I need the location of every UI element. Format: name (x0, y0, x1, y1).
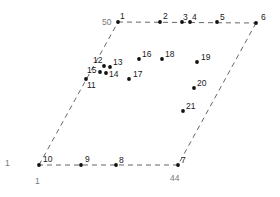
point-label: 5 (220, 12, 225, 22)
point-label: 9 (85, 154, 90, 164)
point-label: 16 (142, 49, 152, 59)
point-label: 12 (93, 55, 103, 65)
point-19: 19 (195, 52, 211, 64)
diagram-canvas: 501144 123456789101112131415161718192021 (0, 0, 280, 197)
point-16: 16 (137, 49, 152, 61)
point-marker (160, 57, 164, 61)
point-marker (104, 71, 108, 75)
point-label: 18 (165, 49, 175, 59)
point-17: 17 (127, 69, 143, 81)
point-11: 11 (84, 77, 96, 90)
point-marker (192, 86, 196, 90)
point-20: 20 (192, 78, 207, 90)
point-marker (254, 21, 258, 25)
point-marker (176, 163, 180, 167)
point-21: 21 (181, 101, 196, 113)
point-label: 11 (87, 80, 96, 90)
point-label: 1 (120, 11, 125, 21)
point-marker (215, 20, 219, 24)
point-label: 3 (183, 12, 188, 22)
point-label: 21 (186, 101, 196, 111)
point-label: 2 (163, 11, 168, 21)
point-marker (102, 64, 106, 68)
bottom-right-value: 44 (170, 173, 180, 183)
left-value: 1 (5, 158, 10, 168)
data-points: 123456789101112131415161718192021 (37, 11, 266, 167)
point-6: 6 (254, 12, 266, 25)
point-label: 17 (133, 69, 143, 79)
point-marker (195, 60, 199, 64)
point-marker (114, 163, 118, 167)
point-5: 5 (215, 12, 225, 24)
parallelogram-edges (39, 22, 256, 165)
point-marker (137, 57, 141, 61)
point-label: 6 (261, 12, 266, 22)
point-14: 14 (104, 69, 119, 79)
point-marker (181, 109, 185, 113)
point-marker (98, 70, 102, 74)
point-label: 15 (87, 65, 97, 75)
point-label: 7 (181, 155, 186, 165)
point-7: 7 (176, 155, 186, 167)
point-marker (37, 163, 41, 167)
point-marker (158, 20, 162, 24)
point-18: 18 (160, 49, 175, 61)
top-left-value: 50 (102, 17, 112, 27)
point-label: 14 (109, 69, 119, 79)
dashed-edge (118, 22, 256, 23)
bottom-left-value: 1 (35, 176, 40, 186)
point-label: 10 (43, 154, 53, 164)
point-marker (79, 163, 83, 167)
point-label: 13 (113, 57, 123, 67)
point-label: 4 (192, 12, 197, 22)
point-13: 13 (108, 57, 123, 69)
point-marker (127, 77, 131, 81)
point-label: 19 (201, 52, 211, 62)
corner-value-labels: 501144 (5, 17, 180, 186)
dashed-edge (178, 23, 256, 165)
point-label: 20 (197, 78, 207, 88)
point-label: 8 (119, 155, 124, 165)
dashed-edge (39, 22, 118, 165)
point-15: 15 (87, 65, 102, 75)
